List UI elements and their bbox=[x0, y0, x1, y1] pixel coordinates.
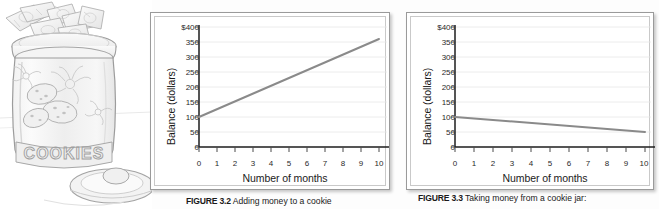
figure-3-2-block: Balance (dollars) $400 350 300 250 200 1… bbox=[150, 12, 390, 190]
figure-3-2-svg bbox=[155, 17, 395, 189]
svg-text:COOKIES: COOKIES bbox=[24, 145, 105, 162]
figure-page: COOKIES Balance (dollars) $400 350 300 2… bbox=[0, 0, 659, 209]
figure-3-3-caption: FIGURE 3.3 Taking money from a cookie ja… bbox=[418, 193, 659, 203]
cookie-jar-illustration: COOKIES bbox=[0, 0, 152, 209]
figure-3-2-frame: Balance (dollars) $400 350 300 250 200 1… bbox=[150, 12, 390, 190]
figure-3-2-caption: FIGURE 3.2 Adding money to a cookie bbox=[186, 196, 416, 206]
figure-3-2-inner-frame: Balance (dollars) $400 350 300 250 200 1… bbox=[154, 16, 386, 186]
figure-3-3-block: Balance (dollars) $400 350 300 250 200 1… bbox=[406, 12, 654, 190]
figure-3-2-caption-text: Adding money to a cookie bbox=[233, 196, 332, 206]
figure-3-2-number: FIGURE 3.2 bbox=[186, 196, 231, 206]
figure-3-3-svg bbox=[411, 17, 659, 189]
figure-3-3-frame: Balance (dollars) $400 350 300 250 200 1… bbox=[406, 12, 654, 190]
figure-3-3-plot: Balance (dollars) $400 350 300 250 200 1… bbox=[411, 17, 649, 185]
figure-3-2-plot: Balance (dollars) $400 350 300 250 200 1… bbox=[155, 17, 385, 185]
figure-3-3-number: FIGURE 3.3 bbox=[418, 193, 463, 203]
figure-3-3-inner-frame: Balance (dollars) $400 350 300 250 200 1… bbox=[410, 16, 650, 186]
figure-3-3-caption-text: Taking money from a cookie jar: bbox=[465, 193, 586, 203]
